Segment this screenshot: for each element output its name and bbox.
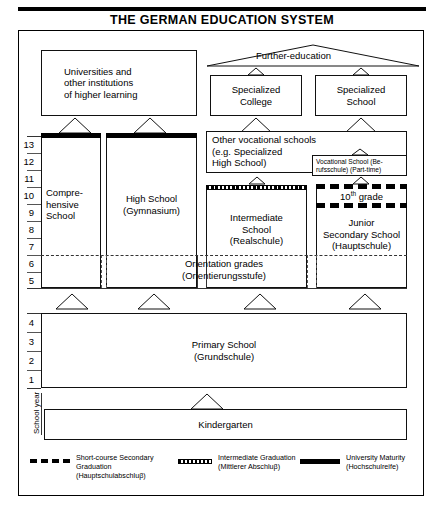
grade-tick-12 — [27, 170, 41, 171]
universities-label: Universities and other institutions of h… — [42, 66, 196, 101]
grade-label-12: 12 — [20, 156, 34, 167]
grade-label-6: 6 — [20, 258, 34, 269]
page-title: THE GERMAN EDUCATION SYSTEM — [0, 13, 444, 27]
specialized-school-label: Specialized School — [316, 84, 406, 107]
kindergarten-box: Kindergarten — [44, 409, 407, 440]
orientation-grades-label: Orientation grades (Orientierungsstufe) — [41, 258, 407, 281]
specialized-school-box: Specialized School — [315, 75, 407, 116]
grade-label-3: 3 — [20, 336, 34, 347]
legend-swatch-university — [300, 459, 340, 464]
further-education-label: Further-education — [256, 50, 331, 61]
grade-label-2: 2 — [20, 355, 34, 366]
junior-short-course-cap-bottom — [316, 203, 407, 208]
primary-school-box: Primary School (Grundschule) — [41, 313, 407, 388]
grade-label-8: 8 — [20, 224, 34, 235]
grade-tick-6 — [27, 272, 41, 273]
tenth-grade-word: grade — [356, 191, 383, 202]
transition-triangle-junior-tenth — [352, 176, 370, 185]
transition-triangle-highschool-university — [133, 117, 167, 134]
comprehensive-school-label: Compre- hensive School — [42, 138, 100, 222]
school-year-axis — [41, 393, 42, 435]
grade-tick-9 — [27, 221, 41, 222]
transition-triangle-junior-vocational — [351, 148, 369, 156]
transition-triangle-roof-school — [352, 67, 370, 76]
lower-scale-top-rule — [27, 313, 41, 314]
grade-tick-8 — [27, 238, 41, 239]
grade-tick-10 — [27, 204, 41, 205]
transition-triangle-primary-highschool — [137, 293, 171, 310]
legend-swatch-intermediate — [178, 459, 212, 464]
specialized-college-label: Specialized College — [211, 84, 301, 107]
transition-triangle-primary-junior — [348, 293, 382, 310]
vocational-school-parttime-box: Vocational School (Be- rufsschule) (Part… — [312, 155, 407, 176]
lower-scale-bottom-rule — [27, 388, 41, 389]
title-rule — [18, 7, 426, 11]
transition-triangle-comprehensive-university — [58, 117, 92, 134]
primary-school-label: Primary School (Grundschule) — [42, 339, 406, 362]
tenth-grade-label: 10th grade — [316, 190, 407, 202]
legend-label-university: University Maturity (Hochschulreife) — [346, 453, 444, 471]
grade-tick-4 — [27, 332, 41, 333]
grade-tick-2 — [27, 370, 41, 371]
grade-tick-7 — [27, 255, 41, 256]
grade-tick-3 — [27, 351, 41, 352]
grade-tick-13 — [27, 153, 41, 154]
tenth-grade-number: 10 — [340, 191, 351, 202]
universities-box: Universities and other institutions of h… — [41, 50, 197, 116]
grade-label-11: 11 — [20, 173, 34, 184]
grade-label-10: 10 — [20, 190, 34, 201]
upper-scale-top-rule — [27, 136, 41, 137]
kindergarten-label: Kindergarten — [45, 419, 406, 431]
transition-triangle-roof-college — [247, 67, 265, 76]
grade-label-1: 1 — [20, 374, 34, 385]
grade-label-5: 5 — [20, 275, 34, 286]
orientation-bottom-rule — [41, 288, 407, 289]
legend-label-short-course: Short-course Secondary Graduation (Haupt… — [76, 453, 206, 481]
high-school-label: High School (Gymnasium) — [107, 138, 196, 216]
grade-tick-11 — [27, 187, 41, 188]
transition-triangle-intermediate-vocational — [248, 176, 266, 185]
legend-swatch-short-course — [30, 459, 70, 463]
transition-triangle-primary-intermediate — [243, 293, 277, 310]
vocational-school-parttime-label: Vocational School (Be- rufsschule) (Part… — [313, 158, 406, 174]
school-year-label: School year — [32, 392, 41, 434]
specialized-college-box: Specialized College — [210, 75, 302, 116]
diagram-root: THE GERMAN EDUCATION SYSTEM Further-educ… — [0, 0, 444, 513]
upper-scale-bottom-rule — [27, 288, 41, 289]
intermediate-school-label: Intermediate School (Realschule) — [207, 190, 306, 247]
orientation-top-dashline — [41, 255, 407, 256]
transition-triangle-primary-comprehensive — [55, 293, 89, 310]
grade-label-4: 4 — [20, 317, 34, 328]
grade-label-13: 13 — [20, 139, 34, 150]
grade-label-7: 7 — [20, 241, 34, 252]
grade-label-9: 9 — [20, 207, 34, 218]
transition-triangle-kindergarten-primary — [190, 393, 224, 410]
